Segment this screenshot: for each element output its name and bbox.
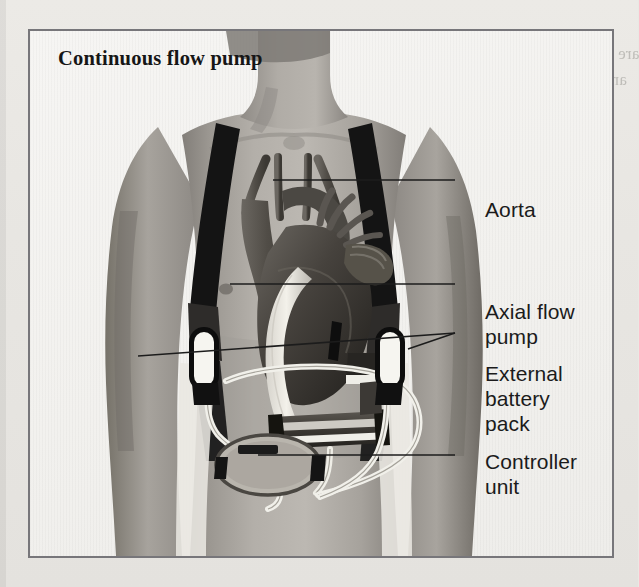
leader-line-battery-left	[138, 333, 455, 356]
label-axial-flow-pump: Axial flow pump	[485, 299, 575, 349]
label-controller-unit: Controller unit	[485, 449, 577, 499]
label-aorta: Aorta	[485, 197, 536, 222]
figure-box: Continuous flow pump	[28, 29, 614, 558]
label-external-battery-pack: External battery pack	[485, 361, 563, 436]
